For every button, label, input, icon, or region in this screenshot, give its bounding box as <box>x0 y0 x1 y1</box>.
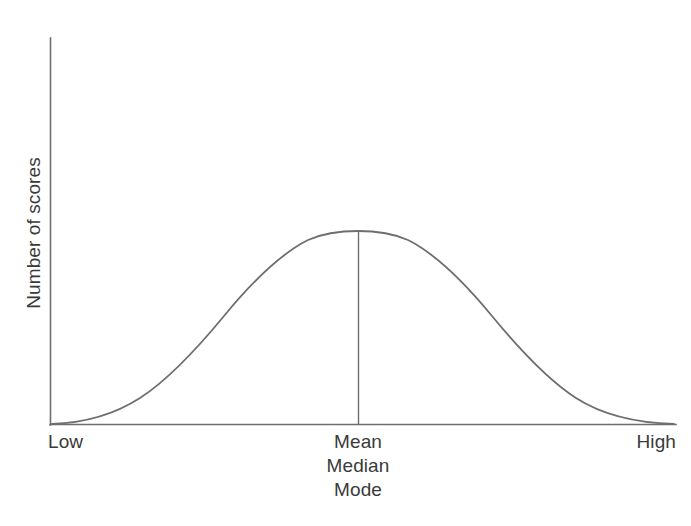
bell-curve-path <box>52 231 674 424</box>
normal-distribution-chart: Number of scores Low Mean Median Mode Hi… <box>0 0 691 526</box>
x-axis-tick-high: High <box>496 430 676 454</box>
x-axis-center-labels: Mean Median Mode <box>258 430 458 502</box>
x-axis-label-median: Median <box>258 454 458 478</box>
x-axis-label-mean: Mean <box>258 430 458 454</box>
y-axis-label: Number of scores <box>19 113 49 353</box>
x-axis-tick-low: Low <box>48 430 83 454</box>
x-axis-label-mode: Mode <box>258 478 458 502</box>
